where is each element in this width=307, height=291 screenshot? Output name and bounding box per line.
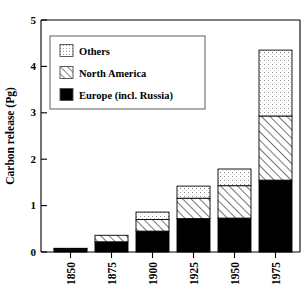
chart-svg: 0 1 2 3 4 5 Carbon release (Pg) bbox=[0, 0, 307, 291]
y-axis-title: Carbon release (Pg) bbox=[4, 87, 17, 185]
bar-segment-others-1900 bbox=[136, 212, 169, 219]
x-tick-label-1975: 1975 bbox=[270, 262, 282, 285]
legend-label-europe: Europe (incl. Russia) bbox=[79, 90, 174, 102]
bar-segment-europe-1900 bbox=[136, 231, 169, 252]
bar-segment-north-america-1925 bbox=[177, 198, 210, 218]
black-swatch-icon bbox=[60, 89, 73, 101]
y-tick-label-2: 2 bbox=[31, 153, 37, 165]
bar-1975 bbox=[259, 50, 292, 252]
bar-segment-others-1850 bbox=[54, 248, 87, 249]
carbon-release-stacked-bar-chart: 0 1 2 3 4 5 Carbon release (Pg) bbox=[0, 0, 307, 291]
legend-label-others: Others bbox=[79, 46, 110, 57]
bar-1950 bbox=[218, 169, 251, 252]
legend: Others North America Europe (incl. Russi… bbox=[50, 36, 205, 109]
bar-segment-europe-1875 bbox=[95, 242, 128, 252]
x-tick-label-1900: 1900 bbox=[147, 262, 159, 285]
bar-1925 bbox=[177, 186, 210, 252]
legend-item-north-america: North America bbox=[60, 67, 147, 79]
bar-segment-others-1975 bbox=[259, 50, 292, 116]
x-tick-label-1925: 1925 bbox=[188, 262, 200, 285]
bar-segment-north-america-1875 bbox=[95, 235, 128, 242]
y-tick-label-5: 5 bbox=[31, 14, 37, 26]
bar-1900 bbox=[136, 212, 169, 252]
bar-segment-europe-1925 bbox=[177, 219, 210, 252]
y-tick-label-1: 1 bbox=[31, 199, 37, 211]
x-tick-label-1850: 1850 bbox=[65, 262, 77, 285]
bar-1875 bbox=[95, 235, 128, 252]
legend-item-others: Others bbox=[60, 45, 110, 57]
legend-label-north-america: North America bbox=[79, 68, 147, 79]
x-tick-label-1875: 1875 bbox=[106, 262, 118, 285]
y-tick-label-4: 4 bbox=[31, 60, 37, 72]
bar-segment-europe-1950 bbox=[218, 218, 251, 252]
dotted-swatch-icon bbox=[60, 45, 73, 57]
bar-segment-north-america-1900 bbox=[136, 220, 169, 232]
bar-segment-others-1925 bbox=[177, 186, 210, 198]
y-tick-label-3: 3 bbox=[31, 106, 37, 118]
x-tick-label-1950: 1950 bbox=[229, 262, 241, 285]
y-tick-label-0: 0 bbox=[31, 246, 37, 258]
bar-segment-north-america-1975 bbox=[259, 116, 292, 180]
bar-1850 bbox=[54, 248, 87, 252]
hatched-swatch-icon bbox=[60, 67, 73, 79]
bar-segment-north-america-1950 bbox=[218, 186, 251, 218]
bar-segment-europe-1975 bbox=[259, 180, 292, 252]
bar-segment-others-1950 bbox=[218, 169, 251, 186]
